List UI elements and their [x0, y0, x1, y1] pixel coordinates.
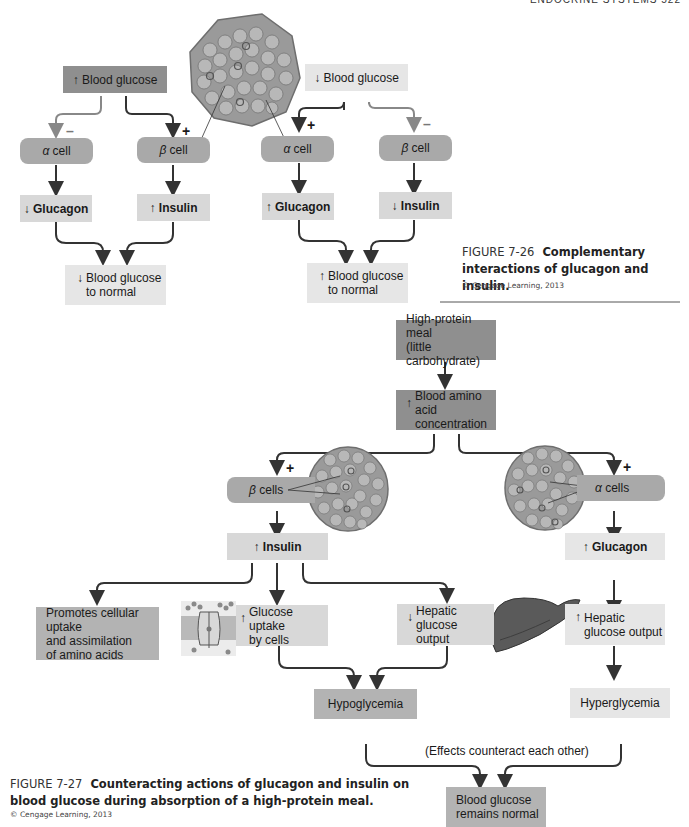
fig26-left-alpha-cell: α cell: [20, 138, 93, 164]
beta-symbol: β: [401, 141, 408, 155]
up-arrow-icon: ↑: [575, 610, 581, 624]
meal-line1: High-protein meal: [406, 312, 471, 340]
down-arrow-icon: ↓: [314, 71, 320, 85]
alpha-cells-box: α cells: [577, 475, 665, 501]
figure-7-27-caption: FIGURE 7-27 Counteracting actions of glu…: [10, 776, 430, 810]
final-line1: Blood glucose: [456, 793, 531, 807]
uptake-line1: Glucose uptake: [249, 605, 293, 633]
cells-label: cells: [605, 481, 629, 495]
hepatic-line1: Hepatic: [584, 611, 625, 625]
cell-label: cell: [412, 141, 430, 155]
hormone-label: Glucagon: [592, 540, 647, 554]
amino-line2: concentration: [415, 417, 487, 431]
fig26-right-result: ↑ Blood glucose to normal: [307, 263, 408, 303]
hypoglycemia-label: Hypoglycemia: [328, 697, 403, 711]
fig26-right-beta-cell: β cell: [379, 135, 452, 161]
down-arrow-icon: ↓: [407, 610, 413, 624]
cells-label: cells: [259, 483, 283, 497]
figure-7-26-credit: © Cengage Learning, 2013: [462, 281, 564, 290]
hepatic-line1: Hepatic: [416, 604, 457, 618]
minus-sign: –: [423, 116, 431, 132]
beta-symbol: β: [159, 143, 166, 157]
hepatic-down-box: ↓ Hepaticglucose output: [397, 604, 494, 645]
beta-symbol: β: [249, 483, 256, 497]
trigger-label: Blood glucose: [82, 73, 157, 87]
up-arrow-icon: ↑: [406, 396, 412, 410]
insulin-box: ↑ Insulin: [227, 533, 328, 560]
result-line1: Blood glucose: [328, 269, 403, 283]
glucagon-box: ↑ Glucagon: [565, 533, 665, 560]
hyperglycemia-label: Hyperglycemia: [580, 696, 659, 710]
up-arrow-icon: ↑: [240, 611, 246, 625]
cell-label: cell: [53, 144, 71, 158]
fig26-right-glucagon: ↑ Glucagon: [262, 193, 334, 220]
figure-number: FIGURE 7-26: [462, 245, 534, 259]
hepatic-line2: glucose output: [416, 618, 457, 646]
hepatic-up-box: ↑ Hepaticglucose output: [565, 604, 665, 645]
counteract-note: (Effects counteract each other): [425, 744, 589, 758]
figure-7-27-credit: © Cengage Learning, 2013: [10, 810, 112, 819]
up-arrow-icon: ↑: [319, 269, 325, 283]
down-arrow-icon: ↓: [24, 202, 30, 216]
glucose-transporter-icon: [181, 601, 236, 656]
up-arrow-icon: ↑: [73, 73, 79, 87]
cell-label: cell: [170, 143, 188, 157]
uptake-line2: by cells: [249, 633, 289, 647]
hepatic-line2: glucose output: [584, 625, 662, 639]
down-arrow-icon: ↓: [77, 271, 83, 285]
alpha-symbol: α: [283, 142, 290, 156]
fig26-left-glucagon: ↓ Glucagon: [20, 195, 92, 222]
up-arrow-icon: ↑: [149, 201, 155, 215]
fig26-right-alpha-cell: α cell: [261, 136, 334, 162]
fig26-left-trigger: ↑ Blood glucose: [63, 66, 167, 93]
promotes-line2: and assimilation: [46, 634, 132, 648]
plus-sign: +: [307, 117, 315, 133]
cell-label: cell: [294, 142, 312, 156]
up-arrow-icon: ↑: [583, 540, 589, 554]
meal-line2: (little carbohydrate): [406, 340, 480, 368]
alpha-symbol: α: [42, 144, 49, 158]
promotes-line3: of amino acids: [46, 648, 123, 662]
result-line1: Blood glucose: [86, 271, 161, 285]
fig26-left-insulin: ↑ Insulin: [137, 194, 210, 221]
amino-line1: Blood amino acid: [415, 389, 482, 417]
result-line2: to normal: [328, 283, 378, 297]
fig26-left-beta-cell: β cell: [137, 137, 210, 163]
hormone-label: Insulin: [159, 201, 198, 215]
hormone-label: Insulin: [401, 199, 440, 213]
alpha-symbol: α: [595, 481, 602, 495]
down-arrow-icon: ↓: [391, 199, 397, 213]
beta-cells-box: β cells: [227, 477, 315, 503]
plus-sign: +: [623, 459, 631, 475]
result-line2: to normal: [86, 285, 136, 299]
fig26-right-insulin: ↓ Insulin: [379, 192, 452, 219]
final-line2: remains normal: [456, 807, 539, 821]
figure-number: FIGURE 7-27: [10, 777, 82, 791]
islet-top: [190, 14, 300, 151]
up-arrow-icon: ↑: [266, 200, 272, 214]
hormone-label: Glucagon: [275, 200, 330, 214]
plus-sign: +: [286, 460, 294, 476]
fig26-right-trigger: ↓ Blood glucose: [305, 64, 408, 91]
minus-sign: –: [66, 123, 74, 139]
fig26-left-result: ↓ Blood glucose to normal: [65, 265, 166, 305]
high-protein-meal-box: High-protein meal(little carbohydrate): [396, 320, 496, 360]
hormone-label: Insulin: [263, 540, 302, 554]
blood-glucose-normal-box: Blood glucoseremains normal: [446, 787, 546, 827]
trigger-label: Blood glucose: [323, 71, 398, 85]
promotes-line1: Promotes cellular uptake: [46, 606, 139, 634]
hypoglycemia-box: Hypoglycemia: [314, 689, 417, 719]
blood-amino-acid-box: ↑ Blood amino acidconcentration: [396, 390, 496, 430]
hyperglycemia-box: Hyperglycemia: [570, 688, 670, 718]
hormone-label: Glucagon: [33, 202, 88, 216]
promotes-uptake-box: Promotes cellular uptakeand assimilation…: [36, 607, 159, 660]
glucose-uptake-box: ↑ Glucose uptakeby cells: [236, 605, 328, 646]
up-arrow-icon: ↑: [253, 540, 259, 554]
